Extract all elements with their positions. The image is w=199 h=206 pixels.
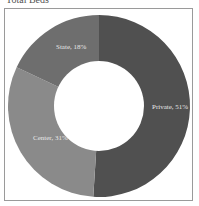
label-state: State, 18%: [56, 43, 86, 51]
label-private: Private, 51%: [152, 103, 188, 111]
label-center: Center, 31%: [33, 134, 68, 142]
donut-chart: Private, 51% Center, 31% State, 18%: [0, 0, 199, 206]
